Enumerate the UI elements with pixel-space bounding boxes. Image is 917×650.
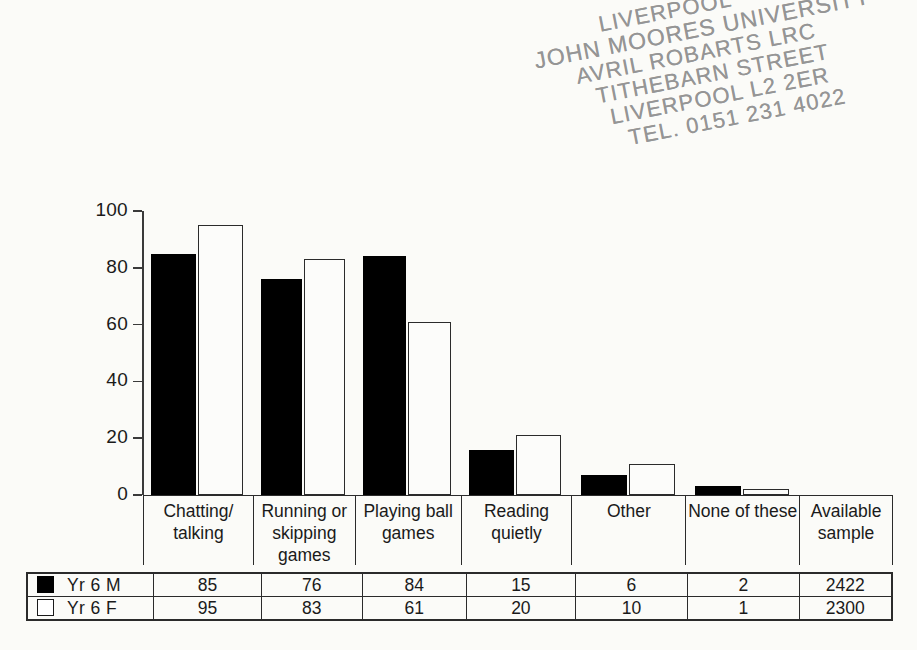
category-header-0: Chatting/talking bbox=[144, 496, 254, 565]
category-header-3: Readingquietly bbox=[462, 496, 573, 565]
table-cell: 83 bbox=[262, 597, 362, 620]
hollow-square-icon bbox=[37, 599, 54, 616]
legend-label: Yr 6 F bbox=[67, 598, 117, 618]
bar-yr6m-5 bbox=[695, 486, 741, 495]
bar-yr6f-4 bbox=[629, 464, 675, 495]
legend-cell: Yr 6 F bbox=[28, 597, 154, 620]
bar-yr6m-2 bbox=[363, 256, 406, 495]
legend-label: Yr 6 M bbox=[67, 575, 121, 595]
table-cell: 20 bbox=[466, 597, 575, 620]
bar-yr6m-1 bbox=[261, 279, 302, 495]
category-header-1: Running orskippinggames bbox=[254, 496, 356, 565]
category-header-label: Other bbox=[607, 500, 651, 522]
category-header-label: Readingquietly bbox=[484, 500, 549, 544]
category-header-5: None of these bbox=[686, 496, 800, 565]
table-cell: 95 bbox=[153, 597, 261, 620]
bars-container bbox=[0, 211, 917, 495]
table-cell: 15 bbox=[466, 574, 575, 597]
table-cell: 10 bbox=[575, 597, 687, 620]
chart-page: LIVERPOOL JOHN MOORES UNIVERSITY AVRIL R… bbox=[0, 0, 917, 650]
category-header-label: None of these bbox=[688, 500, 797, 522]
table-cell: 6 bbox=[575, 574, 687, 597]
category-header-label: Running orskippinggames bbox=[261, 500, 347, 566]
table-cell: 2 bbox=[687, 574, 799, 597]
table-cell: 2422 bbox=[799, 574, 891, 597]
bar-yr6f-3 bbox=[516, 435, 561, 495]
bar-yr6f-0 bbox=[198, 225, 243, 495]
table-cell: 76 bbox=[262, 574, 362, 597]
bar-yr6m-4 bbox=[581, 475, 627, 495]
table-cell: 85 bbox=[153, 574, 261, 597]
category-header-label: Playing ballgames bbox=[363, 500, 453, 544]
category-header-6: Availablesample bbox=[800, 496, 893, 565]
bar-yr6f-2 bbox=[408, 322, 451, 495]
legend-cell: Yr 6 M bbox=[28, 574, 154, 597]
category-header-table: Chatting/talkingRunning orskippinggamesP… bbox=[143, 495, 893, 565]
bar-yr6f-1 bbox=[304, 259, 345, 495]
category-header-4: Other bbox=[572, 496, 686, 565]
table-cell: 1 bbox=[687, 597, 799, 620]
table-row: Yr 6 F958361201012300 bbox=[28, 597, 892, 620]
table-cell: 84 bbox=[362, 574, 466, 597]
category-header-2: Playing ballgames bbox=[356, 496, 462, 565]
table-cell: 61 bbox=[362, 597, 466, 620]
data-table: Yr 6 M85768415622422Yr 6 F95836120101230… bbox=[26, 572, 893, 621]
filled-square-icon bbox=[37, 576, 54, 593]
table-row: Yr 6 M85768415622422 bbox=[28, 574, 892, 597]
table-cell: 2300 bbox=[799, 597, 891, 620]
category-header-label: Chatting/talking bbox=[163, 500, 233, 544]
bar-yr6m-3 bbox=[469, 450, 514, 495]
category-header-label: Availablesample bbox=[811, 500, 882, 544]
bar-yr6m-0 bbox=[151, 254, 196, 495]
